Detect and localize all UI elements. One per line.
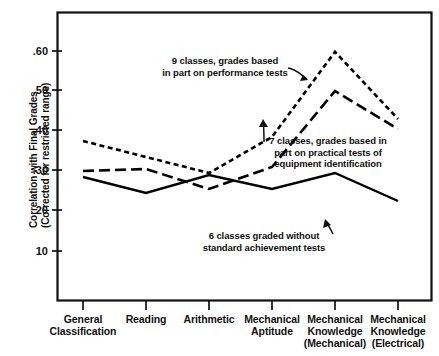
y-tick-label-10: 10 [36,245,48,257]
annotation-line: 9 classes, grades based [160,55,290,67]
annotation-line: in part on performance tests [160,67,290,79]
y-axis-title-line-1: Correlation with Final Grades [28,68,40,228]
annotation-7-classes: 7 classes, grades based in part on pract… [265,135,391,170]
annotation-line: 7 classes, grades based in [265,135,391,147]
y-axis-title: Correlation with Final Grades (Corrected… [28,68,50,228]
y-tick-label-60: .60 [33,45,48,57]
x-axis-label-reading: Reading [111,313,181,325]
x-axis-label-line: Classification [43,325,123,337]
annotation-9-classes: 9 classes, grades based in part on perfo… [160,55,290,78]
line-chart-plot: .60 .50 .40 .30 20 10 [0,0,439,356]
x-axis-label-mechanical-knowledge-electrical: Mechanical Knowledge (Electrical) [358,313,438,349]
x-axis-label-line: Reading [111,313,181,325]
annotation-line: part on practical tests of [265,147,391,159]
arrowhead-7-classes [259,119,268,127]
annotation-line: standard achievement tests [196,242,332,254]
annotation-line: 6 classes graded without [196,230,332,242]
annotation-6-classes: 6 classes graded without standard achiev… [196,230,332,253]
x-axis-label-line: Knowledge [358,325,438,337]
annotation-line: equipment identification [265,158,391,170]
y-axis-title-line-2: (Corrected for restricted range) [40,68,52,228]
x-axis-label-line: (Electrical) [358,337,438,349]
x-axis-ticks [83,301,398,310]
x-axis-label-line: Mechanical [358,313,438,325]
chart-figure: .60 .50 .40 .30 20 10 [0,0,439,356]
